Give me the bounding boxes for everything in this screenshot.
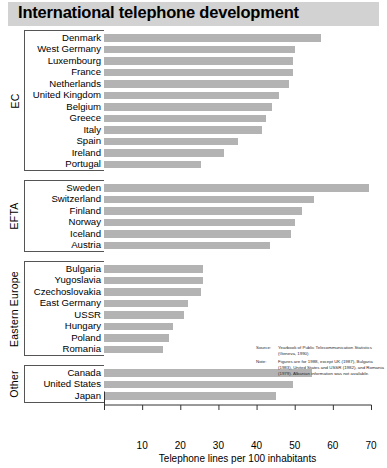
category-label: East Germany	[0, 297, 101, 308]
category-label: Belgium	[0, 101, 101, 112]
category-label: Bulgaria	[0, 263, 101, 274]
x-tick-label: 30	[206, 440, 230, 451]
bar	[104, 346, 163, 354]
page-title: International telephone development	[18, 3, 299, 22]
bar	[104, 92, 279, 100]
category-label: United Kingdom	[0, 89, 101, 100]
bar	[104, 334, 169, 342]
bar	[104, 149, 224, 157]
note-row: Note: Figures are for 1988, except UK (1…	[256, 359, 384, 378]
category-label: Romania	[0, 343, 101, 354]
category-label: Switzerland	[0, 193, 101, 204]
note-value: Figures are for 1988, except UK (1987), …	[278, 359, 384, 378]
category-label: Denmark	[0, 32, 101, 43]
category-label: Sweden	[0, 182, 101, 193]
category-label: Hungary	[0, 320, 101, 331]
bar	[104, 323, 173, 331]
source-label: Source:	[256, 345, 278, 358]
bar	[104, 184, 369, 192]
bar	[104, 161, 201, 169]
category-label: Japan	[0, 390, 101, 401]
x-tick-label: 40	[245, 440, 269, 451]
bar	[104, 57, 293, 65]
category-label: Czechoslovakia	[0, 286, 101, 297]
bar	[104, 219, 295, 227]
category-label: Luxembourg	[0, 55, 101, 66]
category-label: Portugal	[0, 158, 101, 169]
bar	[104, 288, 201, 296]
x-tick-label: 60	[321, 440, 345, 451]
source-note-block: Source: Yearbook of Public Telecommunica…	[256, 345, 384, 378]
category-label: Italy	[0, 124, 101, 135]
x-tick-label: 10	[130, 440, 154, 451]
bar	[104, 311, 184, 319]
category-label: Spain	[0, 135, 101, 146]
bar	[104, 381, 293, 389]
category-label: Norway	[0, 216, 101, 227]
bar	[104, 207, 302, 215]
bar	[104, 80, 289, 88]
bar	[104, 46, 295, 54]
x-tick-label: 70	[359, 440, 383, 451]
source-value: Yearbook of Public Telecommunication Sta…	[278, 345, 384, 358]
bar	[104, 265, 203, 273]
category-label: United States	[0, 378, 101, 389]
category-label: Iceland	[0, 228, 101, 239]
note-label: Note:	[256, 359, 278, 378]
category-label: Netherlands	[0, 78, 101, 89]
category-label: West Germany	[0, 43, 101, 54]
bar	[104, 115, 266, 123]
category-label: Canada	[0, 367, 101, 378]
bar	[104, 242, 270, 250]
category-label: Ireland	[0, 147, 101, 158]
bar	[104, 138, 238, 146]
category-label: Austria	[0, 239, 101, 250]
category-label: Finland	[0, 205, 101, 216]
bar	[104, 126, 262, 134]
bar	[104, 103, 272, 111]
x-axis-title: Telephone lines per 100 inhabitants	[104, 453, 371, 464]
source-row: Source: Yearbook of Public Telecommunica…	[256, 345, 384, 358]
bar-chart: ECDenmarkWest GermanyLuxembourgFranceNet…	[0, 28, 387, 448]
category-label: Poland	[0, 332, 101, 343]
bar	[104, 392, 276, 400]
category-label: Greece	[0, 112, 101, 123]
bar	[104, 300, 188, 308]
bar	[104, 34, 321, 42]
category-label: Yugoslavia	[0, 274, 101, 285]
bar	[104, 230, 291, 238]
x-tick-label: 50	[283, 440, 307, 451]
bar	[104, 69, 293, 77]
bar	[104, 196, 314, 204]
bar	[104, 277, 203, 285]
x-tick-label: 20	[168, 440, 192, 451]
category-label: USSR	[0, 309, 101, 320]
category-label: France	[0, 66, 101, 77]
